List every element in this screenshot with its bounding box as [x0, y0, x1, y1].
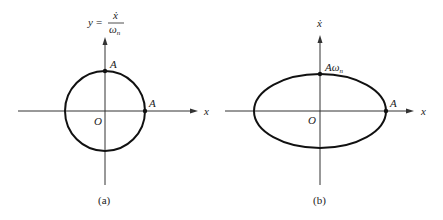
phase-plane-diagram: A A O x y = ẋ ωn (a) Aωn A O x ẋ (b) [0, 0, 443, 220]
origin-label-b: O [308, 114, 316, 126]
y-axis-label-b: ẋ [316, 17, 322, 29]
label-top-a: A [109, 58, 117, 70]
caption-b: (b) [313, 194, 326, 207]
caption-a: (a) [98, 194, 111, 207]
y-axis-arrow-b [318, 35, 323, 43]
point-right-a [143, 109, 147, 113]
y-label-denominator: ωn [109, 23, 121, 37]
x-axis-label-b: x [420, 105, 426, 117]
point-right-b [384, 109, 388, 113]
label-right-a: A [148, 97, 156, 109]
label-top-b: Aωn [324, 61, 344, 75]
y-axis-label-a: y = ẋ ωn [87, 9, 124, 37]
y-label-lhs: y [87, 16, 93, 28]
y-axis-arrow-a [103, 37, 108, 45]
x-axis-arrow-b [406, 109, 414, 114]
x-axis-arrow-a [190, 109, 198, 114]
panel-b: Aωn A O x ẋ (b) [225, 17, 426, 207]
x-axis-label-a: x [203, 105, 209, 117]
y-label-numerator: ẋ [112, 9, 118, 21]
point-top-b [318, 72, 322, 76]
panel-a: A A O x y = ẋ ωn (a) [18, 9, 209, 207]
point-top-a [103, 69, 107, 73]
label-right-b: A [389, 97, 397, 109]
origin-label-a: O [94, 115, 102, 127]
y-label-eq: = [96, 16, 102, 28]
